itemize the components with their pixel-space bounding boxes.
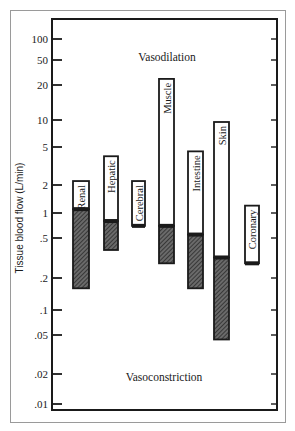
bar-label: Coronary (247, 209, 258, 249)
bar-label: Muscle (162, 83, 173, 114)
y-tick-label: .01 (34, 398, 48, 410)
resting-level (188, 233, 203, 237)
bar-muscle: Muscle (159, 79, 174, 263)
bar-label: Skin (217, 125, 228, 145)
y-axis-ticks-left (52, 39, 62, 404)
vasodilation-label: Vasodilation (138, 51, 196, 63)
bars: RenalHepaticCerebralMuscleIntestineSkinC… (73, 79, 259, 340)
resting-level (104, 219, 118, 223)
y-tick-label: 1 (43, 207, 49, 219)
bar-cerebral: Cerebral (132, 181, 145, 228)
y-axis-tick-labels: 100502010521.5.2.1.05.02.01 (32, 33, 49, 410)
bar-skin: Skin (214, 122, 229, 339)
y-tick-label: .1 (40, 304, 48, 316)
y-tick-label: 10 (37, 114, 49, 126)
y-tick-label: .05 (34, 329, 48, 341)
bar-label: Cerebral (134, 185, 145, 221)
constriction-range (188, 235, 203, 289)
resting-level (132, 224, 145, 228)
bar-label: Hepatic (106, 160, 117, 193)
bar-coronary: Coronary (245, 206, 259, 266)
vasoconstriction-label: Vasoconstriction (126, 371, 203, 383)
y-tick-label: 100 (32, 33, 49, 45)
y-tick-label: 2 (43, 179, 49, 191)
y-tick-label: 20 (37, 79, 49, 91)
bar-label: Renal (76, 185, 87, 210)
y-axis-label: Tissue blood flow (L/min) (14, 163, 25, 274)
y-tick-label: 50 (37, 54, 49, 66)
resting-level (245, 261, 259, 265)
constriction-range (159, 226, 174, 263)
resting-level (159, 224, 174, 228)
y-tick-label: 5 (43, 141, 49, 153)
y-tick-label: .02 (34, 368, 48, 380)
y-tick-label: .2 (40, 272, 48, 284)
constriction-range (104, 221, 118, 250)
y-tick-label: .5 (40, 232, 49, 244)
bar-renal: Renal (73, 181, 89, 288)
constriction-range (214, 257, 229, 339)
constriction-range (73, 209, 89, 288)
bar-label: Intestine (191, 155, 202, 191)
resting-level (214, 255, 229, 259)
blood-flow-chart: 100502010521.5.2.1.05.02.01 RenalHepatic… (0, 0, 295, 431)
bar-hepatic: Hepatic (104, 156, 118, 250)
bar-intestine: Intestine (188, 151, 203, 288)
